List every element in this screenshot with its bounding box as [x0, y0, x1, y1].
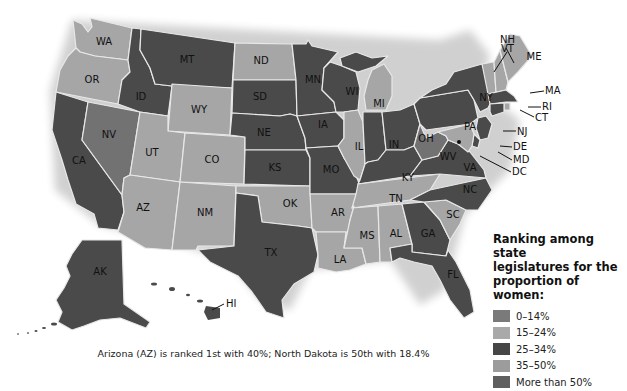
svg-text:DE: DE: [513, 141, 527, 152]
legend-swatch: [493, 327, 510, 339]
label-la: LA: [334, 254, 347, 265]
label-va: VA: [463, 162, 476, 173]
label-ia: IA: [318, 119, 328, 130]
label-ok: OK: [283, 198, 298, 209]
label-tx: TX: [264, 247, 278, 258]
svg-text:DC: DC: [512, 166, 527, 177]
legend-title-line: Ranking among state: [493, 232, 627, 260]
legend-item-over-50: More than 50%: [493, 374, 627, 390]
label-tn: TN: [388, 193, 403, 204]
svg-text:MD: MD: [513, 154, 530, 165]
state-ri[interactable]: [504, 103, 510, 110]
state-ak[interactable]: [56, 240, 150, 330]
svg-text:RI: RI: [542, 101, 552, 112]
label-sc: SC: [446, 209, 459, 220]
label-ms: MS: [360, 230, 375, 241]
legend-swatch: [493, 310, 510, 322]
legend-title-line: proportion of women:: [493, 274, 627, 302]
label-wa: WA: [96, 36, 112, 47]
legend-label: 0–14%: [516, 311, 550, 322]
label-pa: PA: [464, 121, 476, 132]
label-mt: MT: [180, 54, 196, 65]
state-dc[interactable]: [457, 140, 461, 144]
label-in: IN: [389, 139, 399, 150]
label-wv: WV: [440, 151, 457, 162]
legend-title-line: legislatures for the: [493, 260, 627, 274]
legend-label: 35–50%: [516, 360, 556, 371]
legend-swatch: [493, 376, 510, 388]
legend-item-15-24: 15–24%: [493, 325, 627, 341]
legend-swatch: [493, 360, 510, 372]
label-mn: MN: [305, 74, 321, 85]
label-wy: WY: [191, 104, 208, 115]
label-nv: NV: [102, 129, 116, 140]
label-az: AZ: [136, 202, 150, 213]
svg-text:CT: CT: [535, 112, 549, 123]
label-ak: AK: [93, 266, 107, 277]
label-co: CO: [205, 154, 220, 165]
label-nc: NC: [463, 184, 477, 195]
svg-text:MA: MA: [545, 85, 561, 96]
legend-item-35-50: 35–50%: [493, 358, 627, 374]
legend-title: Ranking among state legislatures for the…: [493, 232, 627, 302]
label-sd: SD: [253, 91, 267, 102]
label-fl: FL: [447, 269, 459, 280]
label-ky: KY: [402, 172, 415, 183]
caption-text: Arizona (AZ) is ranked 1st with 40%; Nor…: [98, 348, 430, 359]
label-ca: CA: [72, 155, 86, 166]
label-id: ID: [136, 91, 147, 102]
label-ga: GA: [421, 228, 436, 239]
svg-text:HI: HI: [226, 298, 236, 309]
legend-item-0-14: 0–14%: [493, 308, 627, 324]
label-nd: ND: [253, 55, 268, 66]
label-ne: NE: [257, 127, 271, 138]
label-or: OR: [85, 74, 100, 85]
legend-label: 15–24%: [516, 327, 556, 338]
label-il: IL: [355, 141, 364, 152]
label-ny: NY: [479, 92, 493, 103]
label-ut: UT: [145, 147, 159, 158]
legend: Ranking among state legislatures for the…: [493, 232, 627, 391]
label-al: AL: [390, 228, 403, 239]
label-me: ME: [527, 51, 542, 62]
label-mo: MO: [323, 164, 340, 175]
svg-text:NH: NH: [500, 34, 515, 45]
callout-ri: RI: [528, 101, 552, 112]
label-wi: WI: [346, 86, 359, 97]
callout-hi: HI: [212, 298, 236, 310]
label-nm: NM: [197, 207, 213, 218]
caption: Arizona (AZ) is ranked 1st with 40%; Nor…: [0, 348, 627, 359]
label-oh: OH: [418, 133, 433, 144]
state-hi[interactable]: [151, 283, 220, 321]
label-ks: KS: [269, 162, 282, 173]
svg-text:NJ: NJ: [517, 126, 527, 137]
label-mi: MI: [373, 98, 385, 109]
callout-ct: CT: [520, 110, 549, 123]
callout-ma: MA: [530, 85, 561, 96]
legend-label: More than 50%: [516, 377, 592, 388]
label-ar: AR: [331, 207, 345, 218]
